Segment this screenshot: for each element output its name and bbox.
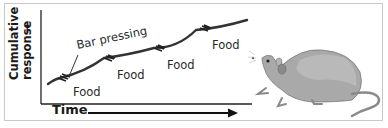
time-arrow-head bbox=[228, 109, 238, 118]
food-label: Food bbox=[117, 68, 145, 82]
food-label: Food bbox=[167, 58, 195, 72]
rat-illustration bbox=[248, 50, 379, 116]
x-axis-label: Time bbox=[52, 102, 88, 117]
food-label: Food bbox=[73, 85, 101, 99]
food-mark bbox=[154, 45, 165, 51]
y-axis-arrow-icon: → bbox=[21, 24, 33, 34]
y-axis-label: Cumulative response → bbox=[8, 14, 38, 88]
y-axis-label-line1: Cumulative bbox=[8, 7, 20, 80]
food-label: Food bbox=[212, 38, 240, 52]
bar-pressing-leader bbox=[70, 55, 78, 74]
